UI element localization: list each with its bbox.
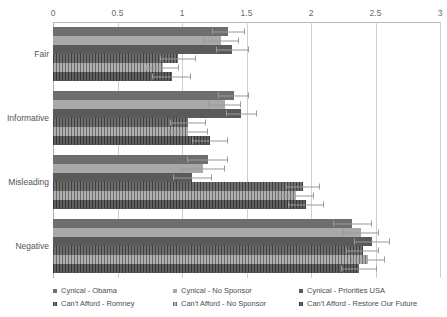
error-bar-cap <box>323 202 324 208</box>
error-bar <box>160 58 196 59</box>
error-bar-cap <box>256 111 257 117</box>
error-bar-cap <box>227 157 228 163</box>
bar <box>53 173 192 182</box>
legend-label: Cynical - Obama <box>61 287 117 295</box>
error-bar-cap <box>211 175 212 181</box>
bar <box>53 136 210 145</box>
error-bar-cap <box>178 65 179 71</box>
error-bar <box>351 259 385 260</box>
error-bar-cap <box>203 38 204 44</box>
legend-item[interactable]: Can't Afford - No Sponsor <box>173 298 266 309</box>
bar-row <box>53 237 440 246</box>
bar-row <box>53 72 440 81</box>
legend-item[interactable]: Can't Afford - Romney <box>53 298 134 309</box>
bar <box>53 200 306 209</box>
bar-row <box>53 91 440 100</box>
error-bar-cap <box>248 93 249 99</box>
error-bar-cap <box>341 266 342 272</box>
bar-row <box>53 54 440 63</box>
error-bar-cap <box>378 248 379 254</box>
bar-row <box>53 118 440 127</box>
x-tick-label: 1.5 <box>241 8 253 18</box>
bar <box>53 264 359 273</box>
error-bar-cap <box>376 266 377 272</box>
bar <box>53 246 363 255</box>
error-bar <box>170 122 206 123</box>
error-bar-cap <box>195 56 196 62</box>
bar-row <box>53 27 440 36</box>
error-bar <box>343 232 379 233</box>
error-bar <box>218 95 249 96</box>
legend-item[interactable]: Cynical - Priorities USA <box>299 285 417 296</box>
error-bar <box>173 177 212 178</box>
legend-label: Can't Afford - Restore Our Future <box>307 300 417 308</box>
error-bar-cap <box>173 175 174 181</box>
bar-row <box>53 109 440 118</box>
bar-chart: 00.511.522.53 FairInformativeMisleadingN… <box>0 0 447 317</box>
legend-column: Cynical - No SponsorCan't Afford - No Sp… <box>173 285 266 311</box>
error-bar-cap <box>286 184 287 190</box>
x-axis-tick-labels: 00.511.522.53 <box>53 0 440 20</box>
bar-row <box>53 182 440 191</box>
legend-column: Cynical - Priorities USACan't Afford - R… <box>299 285 417 311</box>
legend-label: Cynical - Priorities USA <box>307 287 385 295</box>
error-bar-cap <box>226 111 227 117</box>
bar <box>53 45 232 54</box>
error-bar <box>208 104 242 105</box>
bar <box>53 219 352 228</box>
x-tick-label: 0 <box>51 8 56 18</box>
bar-row <box>53 127 440 136</box>
error-bar <box>277 195 313 196</box>
legend-item[interactable]: Cynical - Obama <box>53 285 134 296</box>
error-bar-cap <box>351 257 352 263</box>
error-bar <box>333 223 372 224</box>
error-bar-cap <box>207 129 208 135</box>
error-bar-cap <box>389 239 390 245</box>
bar-row <box>53 255 440 264</box>
bar-row <box>53 219 440 228</box>
error-bar <box>226 113 257 114</box>
bar <box>53 118 188 127</box>
legend-item[interactable]: Cynical - No Sponsor <box>173 285 266 296</box>
bar-row <box>53 36 440 45</box>
error-bar-cap <box>378 230 379 236</box>
error-bar-cap <box>169 129 170 135</box>
bar-row <box>53 264 440 273</box>
error-bar-cap <box>343 230 344 236</box>
error-bar-cap <box>288 202 289 208</box>
legend-label: Can't Afford - Romney <box>61 300 134 308</box>
error-bar <box>181 168 225 169</box>
legend-swatch-icon <box>53 302 57 306</box>
error-bar-cap <box>181 166 182 172</box>
legend-item[interactable]: Can't Afford - Restore Our Future <box>299 298 417 309</box>
bar <box>53 191 296 200</box>
error-bar-cap <box>319 184 320 190</box>
error-bar-cap <box>371 221 372 227</box>
bar-row <box>53 136 440 145</box>
error-bar-cap <box>216 47 217 53</box>
bar <box>53 27 228 36</box>
error-bar <box>192 140 228 141</box>
bar <box>53 237 372 246</box>
category-label: Informative <box>0 113 49 123</box>
error-bar <box>216 49 250 50</box>
error-bar <box>187 159 228 160</box>
error-bar-cap <box>192 138 193 144</box>
category-label: Fair <box>0 49 49 59</box>
error-bar-cap <box>384 257 385 263</box>
x-tick-label: 2 <box>309 8 314 18</box>
error-bar-cap <box>160 56 161 62</box>
error-bar-cap <box>187 157 188 163</box>
error-bar-cap <box>227 138 228 144</box>
bar <box>53 36 221 45</box>
bar-group: Negative <box>0 219 447 273</box>
x-tick-label: 0.5 <box>112 8 124 18</box>
error-bar-cap <box>277 193 278 199</box>
chart-legend: Cynical - ObamaCan't Afford - RomneyCyni… <box>53 285 440 311</box>
error-bar <box>146 67 180 68</box>
error-bar-cap <box>146 65 147 71</box>
bar <box>53 100 225 109</box>
error-bar-cap <box>212 29 213 35</box>
category-label: Negative <box>0 241 49 251</box>
error-bar-cap <box>354 239 355 245</box>
